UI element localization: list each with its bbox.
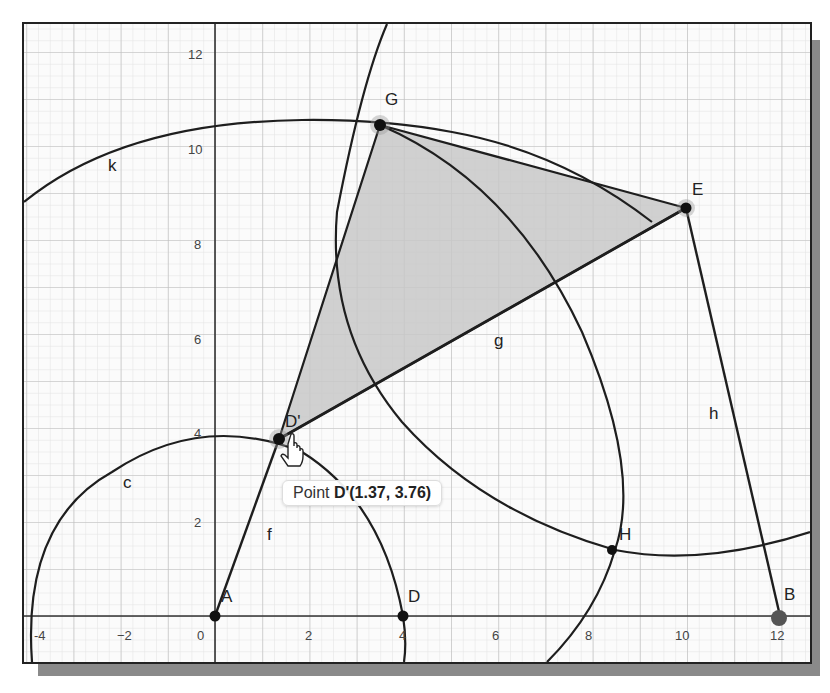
svg-text:6: 6 xyxy=(194,332,201,347)
svg-text:-4: -4 xyxy=(34,628,46,643)
geometry-canvas[interactable]: -4 −2 0 2 4 6 8 10 12 2 4 6 8 10 12 k c … xyxy=(24,24,810,662)
label-c: c xyxy=(123,473,132,492)
svg-text:10: 10 xyxy=(188,142,202,157)
svg-text:12: 12 xyxy=(770,628,784,643)
graphics-view[interactable]: -4 −2 0 2 4 6 8 10 12 2 4 6 8 10 12 k c … xyxy=(22,22,812,664)
svg-text:D': D' xyxy=(285,412,301,431)
svg-text:E: E xyxy=(692,180,703,199)
svg-text:8: 8 xyxy=(585,628,592,643)
label-k: k xyxy=(108,156,117,175)
svg-text:−2: −2 xyxy=(117,628,132,643)
svg-text:12: 12 xyxy=(188,47,202,62)
svg-text:4: 4 xyxy=(194,426,201,441)
label-h: h xyxy=(709,404,718,423)
svg-text:G: G xyxy=(385,90,398,109)
svg-text:B: B xyxy=(784,585,795,604)
tooltip-prefix: Point xyxy=(293,484,334,501)
svg-text:H: H xyxy=(619,525,631,544)
label-g: g xyxy=(494,331,503,350)
svg-text:4: 4 xyxy=(399,628,406,643)
svg-text:10: 10 xyxy=(675,628,689,643)
tooltip-point-name: D'(1.37, 3.76) xyxy=(334,484,431,501)
svg-text:D: D xyxy=(408,587,420,606)
svg-text:8: 8 xyxy=(194,237,201,252)
point-tooltip: Point D'(1.37, 3.76) xyxy=(282,480,442,506)
svg-text:2: 2 xyxy=(194,515,201,530)
svg-text:A: A xyxy=(221,587,233,606)
svg-text:2: 2 xyxy=(305,628,312,643)
svg-text:6: 6 xyxy=(492,628,499,643)
svg-text:0: 0 xyxy=(197,628,204,643)
label-f: f xyxy=(267,525,272,544)
